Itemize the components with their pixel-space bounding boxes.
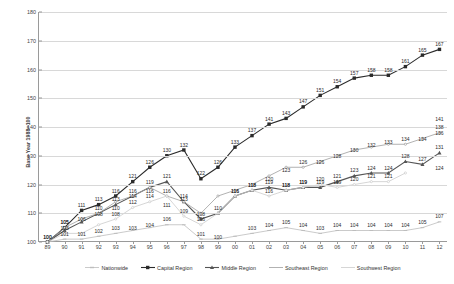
data-point-label: 105 xyxy=(282,220,290,225)
x-tick-label: 06 xyxy=(334,244,340,250)
data-point-marker xyxy=(250,134,253,137)
data-point-label: 120 xyxy=(265,177,273,182)
grid-line xyxy=(39,12,447,13)
legend-label: Southeast Region xyxy=(285,265,328,271)
y-tick-mark xyxy=(39,40,42,41)
data-point-label: 103 xyxy=(316,226,324,231)
data-point-marker xyxy=(132,206,134,208)
data-point-marker xyxy=(302,186,304,188)
data-point-label: 121 xyxy=(163,174,171,179)
legend-swatch-icon xyxy=(205,264,219,271)
y-tick-label: 180 xyxy=(27,9,36,15)
chart-container: Base Year 1988=100 100110120130140150160… xyxy=(0,0,454,284)
data-point-marker xyxy=(148,166,151,169)
x-tick-label: 99 xyxy=(215,244,221,250)
data-point-marker xyxy=(234,195,236,197)
data-point-label: 103 xyxy=(60,226,68,231)
legend-label: Middle Region xyxy=(221,265,255,271)
x-tick-label: 08 xyxy=(368,244,374,250)
data-point-marker xyxy=(98,224,100,226)
data-point-label: 100 xyxy=(43,235,51,240)
legend-item-nationwide[interactable]: Nationwide xyxy=(85,264,128,271)
data-point-label: 104 xyxy=(367,223,375,228)
grid-line xyxy=(39,98,447,99)
legend-item-middle-region[interactable]: Middle Region xyxy=(205,264,255,271)
data-point-label: 101 xyxy=(77,232,85,237)
legend-swatch-icon xyxy=(341,264,355,271)
data-point-label: 104 xyxy=(401,223,409,228)
data-point-marker xyxy=(404,65,407,68)
legend-item-southeast-region[interactable]: Southeast Region xyxy=(269,264,328,271)
data-point-marker xyxy=(165,180,169,184)
x-tick-label: 93 xyxy=(113,244,119,250)
data-point-marker xyxy=(285,189,287,191)
data-point-label: 147 xyxy=(299,99,307,104)
data-point-marker xyxy=(404,143,406,145)
data-point-label: 113 xyxy=(95,197,103,202)
data-point-label: 107 xyxy=(435,214,443,219)
data-point-label: 104 xyxy=(299,223,307,228)
data-point-marker xyxy=(131,180,134,183)
data-point-label: 161 xyxy=(401,59,409,64)
data-point-label: 101 xyxy=(60,232,68,237)
data-point-label: 118 xyxy=(282,183,290,188)
data-point-label: 111 xyxy=(78,203,86,208)
data-point-label: 126 xyxy=(316,160,324,165)
y-tick-mark xyxy=(39,184,42,185)
data-point-label: 141 xyxy=(265,117,273,122)
data-point-label: 119 xyxy=(299,180,307,185)
data-point-marker xyxy=(268,195,270,197)
data-point-label: 126 xyxy=(214,160,222,165)
legend-item-southwest-region[interactable]: Southwest Region xyxy=(341,264,401,271)
data-point-label: 111 xyxy=(163,203,171,208)
legend-item-capital-region[interactable]: Capital Region xyxy=(141,264,192,271)
y-tick-mark xyxy=(39,98,42,99)
data-point-label: 116 xyxy=(265,189,273,194)
data-point-label: 121 xyxy=(384,174,392,179)
data-point-label: 120 xyxy=(350,177,358,182)
data-point-marker xyxy=(318,94,321,97)
x-tick-label: 07 xyxy=(351,244,357,250)
data-point-marker xyxy=(421,53,424,56)
y-tick-label: 120 xyxy=(27,182,36,188)
data-point-marker xyxy=(437,151,441,155)
data-point-marker xyxy=(370,181,372,183)
x-tick-label: 05 xyxy=(317,244,323,250)
data-point-marker xyxy=(336,85,339,88)
data-point-label: 134 xyxy=(401,137,409,142)
data-point-label: 133 xyxy=(231,140,239,145)
data-point-label: 123 xyxy=(350,168,358,173)
data-point-marker xyxy=(284,117,287,120)
data-point-marker xyxy=(267,122,270,125)
data-point-label: 109 xyxy=(180,209,188,214)
data-point-label: 100 xyxy=(214,235,222,240)
y-tick-label: 140 xyxy=(27,124,36,130)
data-point-marker xyxy=(183,215,185,217)
data-point-label: 128 xyxy=(401,154,409,159)
data-point-label: 158 xyxy=(367,68,375,73)
data-point-label: 123 xyxy=(282,168,290,173)
data-point-marker xyxy=(301,105,304,108)
data-point-label: 103 xyxy=(129,226,137,231)
y-tick-label: 160 xyxy=(27,67,36,73)
data-point-label: 101 xyxy=(197,232,205,237)
data-point-marker xyxy=(404,172,406,174)
legend-swatch-icon xyxy=(141,264,155,271)
data-point-marker xyxy=(387,74,390,77)
data-point-label: 104 xyxy=(384,223,392,228)
legend-label: Southwest Region xyxy=(357,265,401,271)
data-point-marker xyxy=(80,209,83,212)
y-tick-mark xyxy=(39,213,42,214)
data-point-label: 130 xyxy=(350,148,358,153)
x-tick-label: 01 xyxy=(249,244,255,250)
data-point-marker xyxy=(387,181,389,183)
grid-line xyxy=(39,156,447,157)
data-point-marker xyxy=(217,195,219,197)
data-point-label: 151 xyxy=(316,88,324,93)
x-tick-label: 00 xyxy=(232,244,238,250)
data-point-marker xyxy=(336,186,338,188)
data-point-label: 119 xyxy=(146,180,154,185)
data-point-label: 133 xyxy=(384,140,392,145)
x-tick-label: 92 xyxy=(96,244,102,250)
grid-line xyxy=(39,185,447,186)
